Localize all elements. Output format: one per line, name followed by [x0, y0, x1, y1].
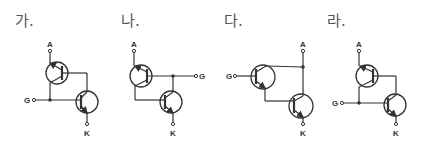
transistor-top	[251, 65, 275, 89]
cathode-terminal	[85, 122, 88, 125]
terminal-label-k: K	[170, 129, 176, 138]
transistor-bottom	[160, 91, 182, 113]
terminal-label-k: K	[84, 129, 90, 138]
cathode-terminal	[394, 122, 397, 125]
terminal-label-k: K	[300, 129, 306, 138]
transistor-bottom	[76, 91, 98, 113]
anode-terminal	[357, 49, 360, 52]
junction-dot	[48, 98, 52, 102]
terminal-label-g: G	[24, 96, 30, 105]
circuit-na: A G K	[130, 40, 205, 138]
cathode-terminal	[171, 122, 174, 125]
circuit-ra: A G K	[332, 40, 406, 138]
terminal-label-g: G	[199, 72, 205, 81]
junction-dot	[357, 101, 361, 105]
gate-terminal	[340, 101, 343, 104]
gate-terminal	[233, 74, 236, 77]
terminal-label-a: A	[356, 40, 362, 49]
terminal-label-k: K	[393, 129, 399, 138]
circuit-ga: A G K	[24, 40, 98, 138]
anode-terminal	[132, 49, 135, 52]
anode-terminal	[301, 49, 304, 52]
terminal-label-a: A	[47, 40, 53, 49]
cathode-terminal	[301, 122, 304, 125]
gate-terminal	[194, 74, 197, 77]
terminal-label-g: G	[226, 72, 232, 81]
circuit-da: A G K	[226, 40, 313, 138]
gate-terminal	[32, 98, 35, 101]
terminal-label-g: G	[332, 99, 338, 108]
terminal-label-a: A	[300, 40, 306, 49]
anode-terminal	[48, 49, 51, 52]
circuit-diagrams: A G K A G	[0, 0, 425, 147]
terminal-label-a: A	[131, 40, 137, 49]
